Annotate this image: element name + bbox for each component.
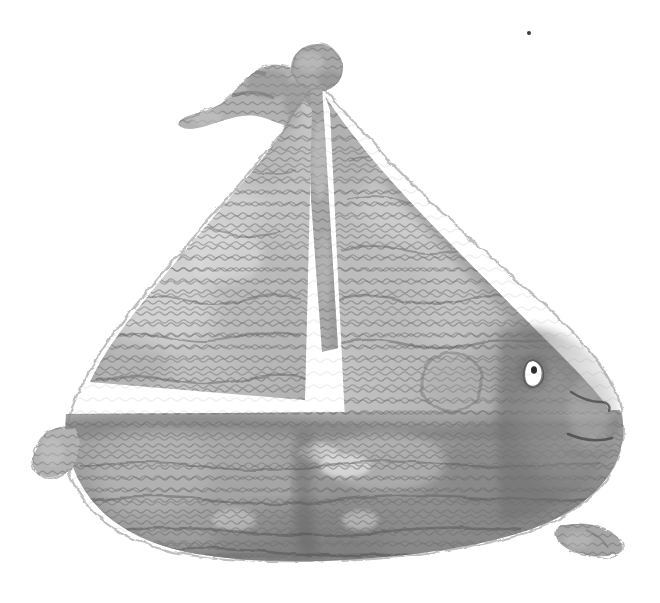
sailboat-creature-illustration xyxy=(0,0,660,603)
ink-speck xyxy=(527,31,531,35)
illustration-canvas: Watercolor Sailboat Creature A whimsical… xyxy=(0,0,660,603)
